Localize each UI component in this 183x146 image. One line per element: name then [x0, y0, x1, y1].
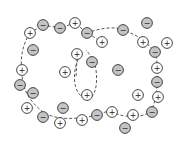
positive-ion: +	[22, 103, 33, 114]
ion-sign: +	[24, 104, 31, 113]
ion-sign: −	[40, 113, 47, 122]
ion-sign: −	[17, 81, 24, 90]
ion-sign: +	[154, 64, 161, 73]
negative-ion: −	[147, 107, 158, 118]
ion-sign: −	[40, 21, 47, 30]
negative-ion: −	[82, 28, 93, 39]
positive-ion: +	[25, 28, 36, 39]
ion-sign: +	[72, 19, 79, 28]
positive-ion: +	[60, 67, 71, 78]
ion-sign: +	[62, 68, 69, 77]
ion-sign: −	[57, 24, 64, 33]
positive-ion: +	[17, 65, 28, 76]
ion-sign: +	[99, 38, 106, 47]
ion-sign: +	[57, 119, 64, 128]
ion-sign: +	[27, 29, 34, 38]
positive-ion: +	[72, 49, 83, 60]
ion-layer: +−−+−−++−+−−−++−+−+++−−++−−++−++−−	[15, 18, 173, 134]
ion-sign: −	[94, 111, 101, 120]
positive-ion: +	[128, 110, 139, 121]
ion-sign: +	[74, 50, 81, 59]
ion-diagram: +−−+−−++−+−−−++−+−+++−−++−−++−++−−	[0, 0, 183, 146]
ion-sign: −	[89, 58, 96, 67]
positive-ion: +	[133, 90, 144, 101]
positive-ion: +	[152, 63, 163, 74]
ion-sign: −	[84, 29, 91, 38]
ion-sign: −	[120, 26, 127, 35]
negative-ion: −	[142, 18, 153, 29]
ion-sign: +	[164, 39, 171, 48]
positive-ion: +	[162, 38, 173, 49]
negative-ion: −	[92, 110, 103, 121]
positive-ion: +	[55, 118, 66, 129]
positive-ion: +	[82, 90, 93, 101]
ion-sign: +	[135, 91, 142, 100]
positive-ion: +	[70, 18, 81, 29]
ion-sign: −	[152, 48, 159, 57]
ion-sign: −	[149, 108, 156, 117]
negative-ion: −	[28, 88, 39, 99]
positive-ion: +	[153, 92, 164, 103]
ion-sign: +	[155, 93, 162, 102]
negative-ion: −	[150, 47, 161, 58]
positive-ion: +	[138, 37, 149, 48]
negative-ion: −	[87, 57, 98, 68]
ion-sign: −	[60, 104, 67, 113]
ion-sign: −	[144, 19, 151, 28]
ion-sign: −	[30, 46, 37, 55]
positive-ion: +	[107, 107, 118, 118]
ion-sign: −	[122, 124, 129, 133]
positive-ion: +	[77, 115, 88, 126]
negative-ion: −	[28, 45, 39, 56]
ion-sign: +	[130, 111, 137, 120]
negative-ion: −	[113, 65, 124, 76]
negative-ion: −	[15, 80, 26, 91]
negative-ion: −	[118, 25, 129, 36]
positive-ion: +	[97, 37, 108, 48]
negative-ion: −	[38, 20, 49, 31]
left-inner-boundary	[76, 58, 77, 78]
ion-sign: +	[109, 108, 116, 117]
ion-sign: +	[79, 116, 86, 125]
negative-ion: −	[58, 103, 69, 114]
ion-sign: −	[154, 78, 161, 87]
ion-sign: −	[115, 66, 122, 75]
ion-sign: +	[84, 91, 91, 100]
negative-ion: −	[38, 112, 49, 123]
negative-ion: −	[120, 123, 131, 134]
ion-sign: +	[19, 66, 26, 75]
ion-sign: +	[140, 38, 147, 47]
negative-ion: −	[55, 23, 66, 34]
ion-sign: −	[30, 89, 37, 98]
negative-ion: −	[152, 77, 163, 88]
